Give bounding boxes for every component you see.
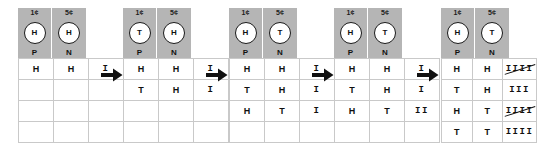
cell-penny-outcome: T <box>442 80 473 101</box>
right-arrow-icon <box>206 68 228 82</box>
coin-header: 1¢HP5¢HN <box>18 8 124 58</box>
coin-denomination-label: 1¢ <box>242 9 250 17</box>
coin-icon: T <box>481 22 503 44</box>
cell-nickel-outcome: H <box>472 80 503 101</box>
cell-penny-outcome: H <box>230 59 265 80</box>
tally-group: I <box>419 85 426 96</box>
cell-nickel-outcome: H <box>370 80 405 101</box>
coin-face-label: H <box>455 29 461 37</box>
cell-nickel-outcome <box>159 101 194 122</box>
coin-denomination-label: 5¢ <box>381 9 389 17</box>
cell-tally-count <box>194 101 229 122</box>
coin-icon: H <box>235 22 257 44</box>
cell-tally-count: II <box>405 101 440 122</box>
table-row <box>124 101 229 122</box>
tally-group: IIII <box>506 127 534 138</box>
cell-penny-outcome <box>19 122 54 143</box>
cell-tally-count <box>89 80 124 101</box>
cell-tally-count: I <box>300 101 335 122</box>
cell-penny-outcome: H <box>442 101 473 122</box>
cell-tally-count <box>89 101 124 122</box>
coin-icon: H <box>163 22 185 44</box>
cell-tally-count <box>89 122 124 143</box>
coin-abbreviation-label: N <box>277 48 283 57</box>
coin-header-cell-nickel: 5¢TN <box>263 8 297 58</box>
cell-tally-count <box>300 122 335 143</box>
coin-denomination-label: 1¢ <box>454 9 462 17</box>
coin-denomination-label: 5¢ <box>488 9 496 17</box>
coin-abbreviation-label: N <box>171 48 177 57</box>
cell-nickel-outcome <box>265 122 300 143</box>
cell-nickel-outcome <box>54 80 89 101</box>
cell-nickel-outcome: H <box>159 59 194 80</box>
cell-nickel-outcome: H <box>54 59 89 80</box>
coin-face-label: T <box>137 29 142 37</box>
cell-tally-count <box>405 122 440 143</box>
table-row <box>19 80 124 101</box>
cell-tally-count: IIII <box>503 122 537 143</box>
coin-denomination-label: 1¢ <box>31 9 39 17</box>
cell-nickel-outcome: H <box>472 59 503 80</box>
coin-header-cell-penny: 1¢HP <box>18 8 52 58</box>
cell-penny-outcome: H <box>230 101 265 122</box>
coin-icon: H <box>447 22 469 44</box>
cell-penny-outcome: H <box>442 59 473 80</box>
cell-nickel-outcome <box>370 122 405 143</box>
tally-group: I <box>314 106 321 117</box>
coin-icon: T <box>269 22 291 44</box>
tally-strokes: I <box>208 85 215 96</box>
tally-strokes: III <box>509 85 530 96</box>
coin-face-label: H <box>348 29 354 37</box>
table-row: THIII <box>442 80 537 101</box>
cell-penny-outcome: H <box>19 59 54 80</box>
cell-nickel-outcome: H <box>265 59 300 80</box>
table-row: THI <box>335 80 440 101</box>
table-row: HTI <box>230 101 335 122</box>
coin-denomination-label: 5¢ <box>276 9 284 17</box>
cell-tally-count <box>194 122 229 143</box>
coin-header: 1¢HP5¢TN <box>229 8 335 58</box>
cell-penny-outcome <box>230 122 265 143</box>
tally-group: IIII <box>506 64 534 75</box>
cell-penny-outcome: T <box>124 80 159 101</box>
coin-face-label: H <box>243 29 249 37</box>
coin-header: 1¢TP5¢HN <box>123 8 229 58</box>
coin-face-label: H <box>171 29 177 37</box>
cell-nickel-outcome: T <box>472 122 503 143</box>
tally-group: II <box>415 106 429 117</box>
right-arrow-icon <box>101 68 123 82</box>
cell-penny-outcome: H <box>124 59 159 80</box>
tally-group: III <box>509 85 530 96</box>
right-arrow-icon <box>417 68 439 82</box>
cell-nickel-outcome: H <box>265 80 300 101</box>
cell-penny-outcome <box>124 122 159 143</box>
coin-face-label: T <box>490 29 495 37</box>
table-row: HTII <box>335 101 440 122</box>
cell-tally-count: III <box>503 80 537 101</box>
coin-icon: H <box>24 22 46 44</box>
cell-nickel-outcome: H <box>370 59 405 80</box>
coin-abbreviation-label: N <box>66 48 72 57</box>
cell-nickel-outcome: T <box>472 101 503 122</box>
coin-icon: H <box>340 22 362 44</box>
table-row: HTIIII <box>442 101 537 122</box>
cell-tally-count: IIII <box>503 101 537 122</box>
coin-header-cell-penny: 1¢HP <box>334 8 368 58</box>
cell-nickel-outcome: T <box>370 101 405 122</box>
cell-penny-outcome: T <box>230 80 265 101</box>
tally-strokes: IIII <box>506 127 534 138</box>
coin-header: 1¢HP5¢TN <box>334 8 440 58</box>
cell-nickel-outcome <box>54 122 89 143</box>
table-row: THI <box>230 80 335 101</box>
coin-header: 1¢HP5¢TN <box>441 8 537 58</box>
coin-denomination-label: 1¢ <box>347 9 355 17</box>
cell-nickel-outcome: T <box>265 101 300 122</box>
coin-denomination-label: 5¢ <box>65 9 73 17</box>
table-row: HHIIII <box>442 59 537 80</box>
coin-face-label: H <box>32 29 38 37</box>
table-row: TTIIII <box>442 122 537 143</box>
outcome-tally-table: HHIIIITHIIIHTIIIITTIIII <box>441 58 537 143</box>
tally-strokes: II <box>415 106 429 117</box>
coin-icon: T <box>374 22 396 44</box>
coin-abbreviation-label: N <box>382 48 388 57</box>
